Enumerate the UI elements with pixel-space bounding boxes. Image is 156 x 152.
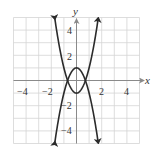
x-tick-label: −4 — [17, 86, 28, 97]
y-tick-label: 2 — [67, 51, 72, 62]
x-tick-label: −2 — [42, 86, 53, 97]
y-axis-label: y — [72, 5, 78, 17]
x-tick-label: 4 — [124, 86, 129, 97]
x-axis-label: x — [144, 74, 150, 86]
y-tick-label: 4 — [67, 25, 72, 36]
x-tick-label: 2 — [99, 86, 104, 97]
coordinate-plane: x y −4 −2 2 4 4 2 −2 −4 — [0, 0, 156, 152]
y-tick-label: −4 — [61, 125, 72, 136]
